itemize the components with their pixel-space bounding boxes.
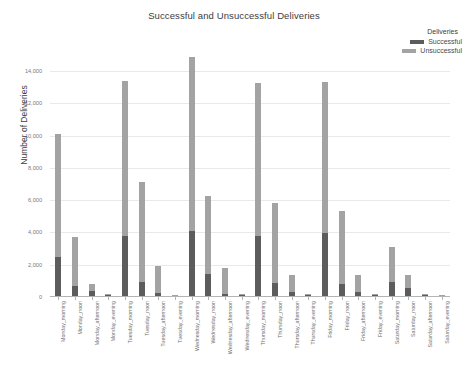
gridline (50, 200, 450, 201)
legend-item-label: Unsuccessful (420, 47, 462, 54)
bar-segment-successful[interactable] (205, 274, 211, 297)
y-tick-label: 0 (39, 294, 42, 300)
x-tick-label: Saturday_afternoon (427, 301, 433, 348)
legend-item-unsuccessful[interactable]: Unsuccessful (366, 47, 462, 54)
x-tick-label: Friday_noon (344, 301, 350, 330)
bar-segment-unsuccessful[interactable] (205, 196, 211, 274)
x-tick-label: Friday_evening (377, 301, 383, 337)
plot-area (50, 55, 450, 297)
x-tick-label: Tuesday_evening (177, 301, 183, 343)
legend-items: SuccessfulUnsuccessful (366, 38, 462, 54)
x-axis-labels: Monday_morningMonday_noonMonday_afternoo… (50, 299, 450, 369)
bar-segment-unsuccessful[interactable] (222, 268, 228, 294)
bar-segment-unsuccessful[interactable] (422, 294, 428, 295)
bar-segment-unsuccessful[interactable] (289, 275, 295, 292)
gridline (50, 103, 450, 104)
gridline (50, 232, 450, 233)
bar-segment-unsuccessful[interactable] (272, 203, 278, 284)
bar-segment-unsuccessful[interactable] (89, 284, 95, 291)
bar-segment-unsuccessful[interactable] (255, 83, 261, 235)
x-tick-label: Friday_morning (327, 301, 333, 338)
bar-segment-unsuccessful[interactable] (355, 275, 361, 293)
y-axis-label: Number of Deliveries (19, 55, 29, 195)
bar-segment-successful[interactable] (122, 236, 128, 297)
x-tick-label: Monday_noon (77, 301, 83, 335)
legend-title: Deliveries (366, 28, 462, 35)
chart-container: Successful and Unsuccessful Deliveries D… (0, 0, 468, 369)
chart-title: Successful and Unsuccessful Deliveries (0, 10, 468, 21)
x-tick-label: Monday_evening (110, 301, 116, 341)
x-tick-label: Wednesday_morning (194, 301, 200, 351)
x-tick-label: Thursday_morning (260, 301, 266, 345)
bar-segment-successful[interactable] (389, 282, 395, 297)
x-tick-label: Saturday_evening (444, 301, 450, 344)
gridline (50, 136, 450, 137)
bar-segment-successful[interactable] (272, 283, 278, 297)
bar-segment-successful[interactable] (139, 282, 145, 297)
bar-segment-unsuccessful[interactable] (189, 57, 195, 231)
x-tick-label: Monday_morning (60, 301, 66, 342)
x-tick-label: Tuesday_noon (144, 301, 150, 336)
bar-segment-unsuccessful[interactable] (239, 294, 245, 295)
y-tick-label: 2,000 (28, 262, 42, 268)
gridline (50, 71, 450, 72)
x-tick-label: Thursday_noon (277, 301, 283, 338)
x-tick-label: Monday_afternoon (94, 301, 100, 345)
bar-segment-unsuccessful[interactable] (122, 81, 128, 236)
bar-segment-unsuccessful[interactable] (405, 275, 411, 288)
x-tick-label: Thursday_afternoon (294, 301, 300, 348)
legend-swatch-icon (402, 49, 416, 53)
bar-segment-unsuccessful[interactable] (72, 237, 78, 286)
x-tick-label: Tuesday_afternoon (160, 301, 166, 346)
x-tick-label: Thursday_evening (310, 301, 316, 345)
bar-segment-unsuccessful[interactable] (389, 247, 395, 282)
bar-segment-successful[interactable] (55, 257, 61, 297)
x-tick-label: Wednesday_evening (244, 301, 250, 350)
x-tick-label: Friday_afternoon (360, 301, 366, 341)
bar-segment-successful[interactable] (255, 236, 261, 297)
bar-segment-unsuccessful[interactable] (155, 266, 161, 293)
x-axis-line (50, 296, 450, 297)
x-tick-label: Saturday_noon (410, 301, 416, 337)
y-tick-label: 6,000 (28, 197, 42, 203)
x-tick-label: Wednesday_afternoon (227, 301, 233, 354)
x-tick-label: Tuesday_morning (127, 301, 133, 343)
bar-segment-unsuccessful[interactable] (305, 294, 311, 295)
y-tick-label: 4,000 (28, 229, 42, 235)
x-tick-label: Saturday_morning (394, 301, 400, 344)
bar-segment-unsuccessful[interactable] (339, 211, 345, 284)
legend-item-label: Successful (428, 38, 462, 45)
legend-item-successful[interactable]: Successful (366, 38, 462, 45)
bar-segment-unsuccessful[interactable] (322, 82, 328, 233)
legend-swatch-icon (410, 40, 424, 44)
bar-segment-unsuccessful[interactable] (105, 294, 111, 295)
y-tick-label: 8,000 (28, 165, 42, 171)
x-tick-label: Wednesday_noon (210, 301, 216, 344)
bar-segment-unsuccessful[interactable] (139, 182, 145, 283)
chart-legend: Deliveries SuccessfulUnsuccessful (366, 28, 462, 56)
bar-segment-successful[interactable] (322, 233, 328, 297)
bar-segment-successful[interactable] (189, 231, 195, 297)
gridline (50, 168, 450, 169)
bar-segment-unsuccessful[interactable] (55, 134, 61, 257)
